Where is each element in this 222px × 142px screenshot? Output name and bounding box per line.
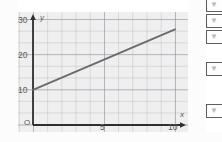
x-axis-name: x bbox=[180, 110, 184, 119]
y-axis-arrowhead bbox=[30, 14, 36, 20]
answer-dropdown-1[interactable]: ▼ bbox=[206, 0, 222, 12]
answer-dropdown-2[interactable]: ▼ bbox=[206, 14, 222, 28]
chevron-down-icon: ▼ bbox=[210, 17, 217, 24]
origin-label: O bbox=[24, 118, 30, 127]
answer-dropdown-5[interactable]: ▼ bbox=[206, 104, 222, 118]
chevron-down-icon: ▼ bbox=[210, 1, 217, 8]
y-tick-label-10: 10 bbox=[18, 85, 27, 95]
answer-dropdown-3[interactable]: ▼ bbox=[206, 30, 222, 44]
y-tick-label-30: 30 bbox=[18, 15, 27, 25]
data-line-series bbox=[33, 29, 175, 89]
page-right-gap bbox=[188, 0, 206, 142]
coordinate-graph: 30 20 10 O 5 10 y x bbox=[18, 12, 188, 132]
chevron-down-icon: ▼ bbox=[210, 65, 217, 72]
x-axis-arrowhead bbox=[180, 122, 186, 128]
chevron-down-icon: ▼ bbox=[210, 33, 217, 40]
y-tick-label-20: 20 bbox=[18, 50, 27, 60]
screenshot-root: 30 20 10 O 5 10 y x ▼ ▼ ▼ ▼ ▼ bbox=[0, 0, 222, 142]
chevron-down-icon: ▼ bbox=[210, 107, 217, 114]
chart-svg bbox=[18, 12, 188, 132]
y-axis-name: y bbox=[40, 13, 44, 22]
x-tick-label-5: 5 bbox=[100, 122, 105, 132]
answer-dropdown-4[interactable]: ▼ bbox=[206, 62, 222, 76]
x-tick-label-10: 10 bbox=[168, 122, 177, 132]
page-left-margin bbox=[0, 0, 18, 142]
